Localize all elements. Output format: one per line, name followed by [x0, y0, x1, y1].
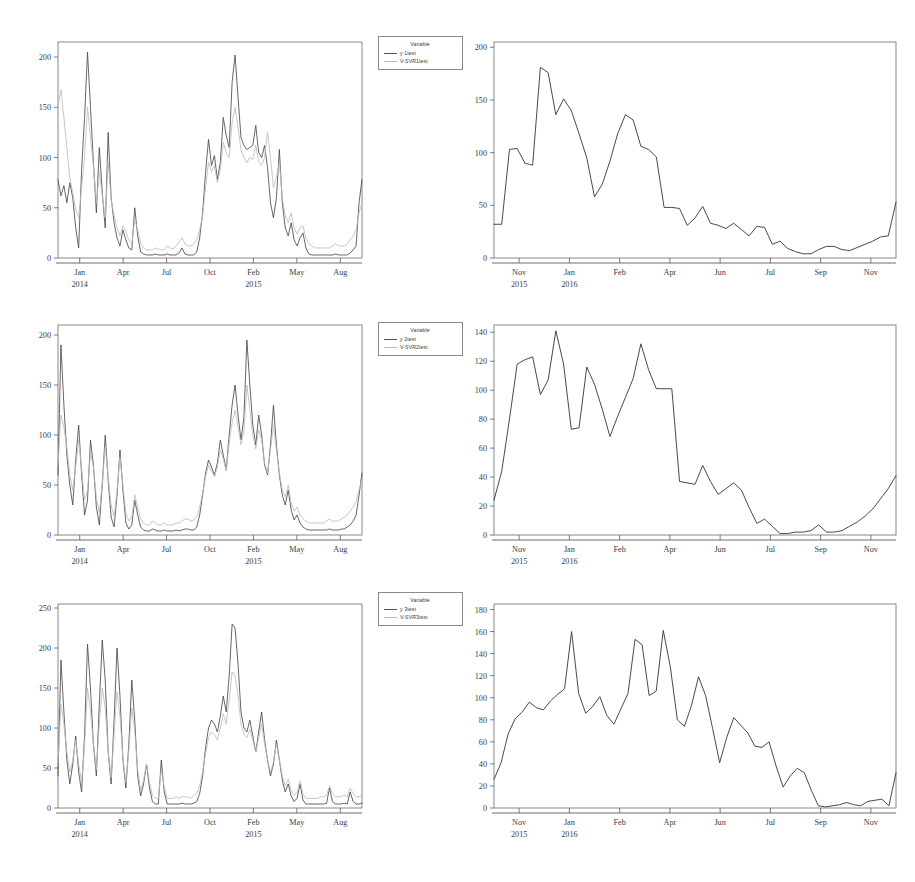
legend-line-swatch-light	[384, 61, 397, 62]
svg-text:80: 80	[479, 415, 487, 424]
svg-text:2015: 2015	[511, 557, 527, 566]
legend-title: Variable	[384, 596, 456, 604]
svg-text:Jan: Jan	[564, 268, 575, 277]
legend-entry-actual: y 3test	[384, 605, 456, 613]
svg-text:Jan: Jan	[564, 545, 575, 554]
svg-text:2015: 2015	[245, 280, 261, 289]
svg-text:2015: 2015	[511, 280, 527, 289]
panel-mid-right: 020406080100120140NovJanFebAprJunJulSepN…	[450, 313, 905, 588]
legend-entry-label: V-SVR1test	[400, 57, 428, 65]
svg-text:40: 40	[479, 473, 487, 482]
svg-text:150: 150	[39, 684, 51, 693]
svg-text:Sep: Sep	[814, 818, 826, 827]
svg-text:Jan: Jan	[74, 545, 85, 554]
svg-text:100: 100	[475, 386, 487, 395]
plot-top-left: 050100150200JanAprJulOctFebMayAug2014201…	[10, 30, 370, 305]
svg-text:Apr: Apr	[664, 268, 677, 277]
legend-entry-label: V-SVR3test	[400, 613, 428, 621]
svg-text:Nov: Nov	[864, 268, 879, 277]
svg-text:140: 140	[475, 650, 487, 659]
legend-entry-label: y 1test	[400, 49, 416, 57]
plot-bottom-left: 050100150200250JanAprJulOctFebMayAug2014…	[10, 590, 370, 865]
svg-text:2015: 2015	[511, 830, 527, 839]
svg-text:150: 150	[39, 103, 51, 112]
svg-text:Jul: Jul	[766, 545, 776, 554]
legend-line-swatch-dark	[384, 53, 397, 54]
svg-text:50: 50	[43, 764, 51, 773]
svg-text:Feb: Feb	[247, 268, 259, 277]
svg-text:Jun: Jun	[714, 818, 725, 827]
svg-text:120: 120	[475, 672, 487, 681]
svg-text:May: May	[289, 545, 305, 554]
legend-line-swatch-dark	[384, 609, 397, 610]
legend-entry-label: V-SVR2test	[400, 343, 428, 351]
svg-text:150: 150	[475, 96, 487, 105]
svg-text:2015: 2015	[245, 557, 261, 566]
svg-text:180: 180	[475, 606, 487, 615]
svg-text:Aug: Aug	[333, 545, 347, 554]
svg-text:160: 160	[475, 628, 487, 637]
svg-text:0: 0	[483, 254, 487, 263]
svg-text:2014: 2014	[72, 280, 88, 289]
legend-entry-actual: y 2test	[384, 335, 456, 343]
legend-entry-label: y 2test	[400, 335, 416, 343]
legend-entry-pred: V-SVR2test	[384, 343, 456, 351]
svg-text:Nov: Nov	[512, 268, 527, 277]
svg-text:Feb: Feb	[247, 818, 259, 827]
svg-text:Nov: Nov	[512, 818, 527, 827]
svg-text:Apr: Apr	[117, 268, 130, 277]
svg-text:Jun: Jun	[714, 545, 725, 554]
svg-text:May: May	[289, 268, 305, 277]
panel-top-right: 050100150200NovJanFebAprJunJulSepNov2015…	[450, 30, 905, 305]
svg-text:20: 20	[479, 782, 487, 791]
svg-text:150: 150	[39, 381, 51, 390]
svg-text:Aug: Aug	[333, 818, 347, 827]
svg-text:200: 200	[39, 53, 51, 62]
legend-entry-actual: y 1test	[384, 49, 456, 57]
svg-text:0: 0	[483, 531, 487, 540]
svg-text:2016: 2016	[561, 830, 577, 839]
svg-text:Apr: Apr	[117, 545, 130, 554]
svg-text:40: 40	[479, 760, 487, 769]
legend-entry-pred: V-SVR3test	[384, 613, 456, 621]
svg-text:Apr: Apr	[664, 545, 677, 554]
svg-text:Oct: Oct	[204, 268, 217, 277]
svg-text:Jul: Jul	[162, 818, 172, 827]
svg-text:Nov: Nov	[864, 818, 879, 827]
legend-line-swatch-light	[384, 347, 397, 348]
panel-bottom-left: 050100150200250JanAprJulOctFebMayAug2014…	[10, 590, 370, 865]
svg-text:2015: 2015	[245, 830, 261, 839]
svg-text:60: 60	[479, 738, 487, 747]
svg-text:2016: 2016	[561, 280, 577, 289]
svg-text:0: 0	[47, 531, 51, 540]
svg-text:Nov: Nov	[864, 545, 879, 554]
svg-text:Apr: Apr	[117, 818, 130, 827]
svg-text:Sep: Sep	[814, 545, 826, 554]
svg-text:Jul: Jul	[766, 268, 776, 277]
svg-text:2016: 2016	[561, 557, 577, 566]
svg-text:100: 100	[475, 149, 487, 158]
svg-text:Jun: Jun	[714, 268, 725, 277]
svg-text:Jan: Jan	[74, 268, 85, 277]
svg-text:20: 20	[479, 502, 487, 511]
svg-text:Feb: Feb	[613, 268, 625, 277]
svg-text:120: 120	[475, 357, 487, 366]
svg-text:Sep: Sep	[814, 268, 826, 277]
svg-text:140: 140	[475, 328, 487, 337]
svg-text:Jan: Jan	[74, 818, 85, 827]
svg-text:Apr: Apr	[664, 818, 677, 827]
plot-top-right: 050100150200NovJanFebAprJunJulSepNov2015…	[450, 30, 905, 305]
svg-text:Jul: Jul	[766, 818, 776, 827]
panel-bottom-right: 020406080100120140160180NovJanFebAprJunJ…	[450, 590, 905, 865]
svg-text:100: 100	[39, 154, 51, 163]
legend-line-swatch-light	[384, 617, 397, 618]
legend-line-swatch-dark	[384, 339, 397, 340]
legend-title: Variable	[384, 326, 456, 334]
svg-text:0: 0	[47, 254, 51, 263]
svg-text:80: 80	[479, 716, 487, 725]
svg-text:Feb: Feb	[613, 545, 625, 554]
svg-text:Jul: Jul	[162, 268, 172, 277]
svg-text:Nov: Nov	[512, 545, 527, 554]
svg-text:Jul: Jul	[162, 545, 172, 554]
svg-text:250: 250	[39, 604, 51, 613]
